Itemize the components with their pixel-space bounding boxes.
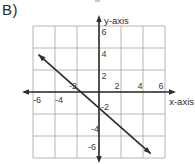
x-tick-label: -2 bbox=[69, 81, 77, 91]
y-tick-label: 6 bbox=[101, 27, 106, 37]
x-tick-label: -6 bbox=[33, 95, 41, 105]
y-tick-label: -2 bbox=[101, 102, 109, 112]
x-tick-label: 2 bbox=[114, 81, 119, 91]
x-tick-label: 4 bbox=[137, 81, 142, 91]
x-tick-label: 6 bbox=[158, 81, 163, 91]
x-axis-title: x-axis bbox=[169, 96, 194, 107]
coordinate-plane: -6-4-2246642-2-4-6x-axisy-axis bbox=[0, 0, 195, 164]
y-tick-label: -4 bbox=[91, 124, 99, 134]
arrowhead-icon bbox=[169, 89, 176, 94]
y-tick-label: 2 bbox=[101, 71, 106, 81]
arrowhead-icon bbox=[96, 15, 101, 22]
arrowhead-icon bbox=[22, 89, 29, 94]
arrowhead-icon bbox=[96, 156, 101, 163]
x-tick-label: -4 bbox=[55, 95, 63, 105]
y-axis-title: y-axis bbox=[104, 15, 129, 26]
y-tick-label: -6 bbox=[88, 142, 96, 152]
y-tick-label: 4 bbox=[101, 49, 106, 59]
